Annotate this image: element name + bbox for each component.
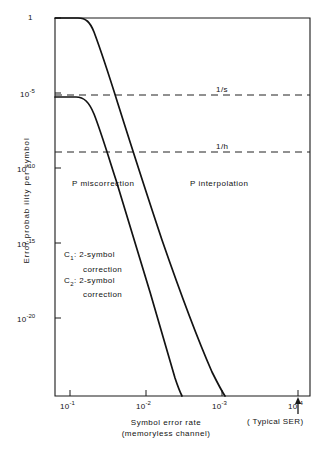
legend-row-c2: C2: 2-symbol (64, 275, 122, 290)
y-tick-label-10e-20: 10-20 (17, 313, 35, 324)
typical-ser-label: ( Typical SER) (247, 417, 304, 426)
y-tick-label-1: 1 (28, 13, 33, 22)
y-axis-ticks (55, 18, 61, 318)
y-tick-label-10e-15: 10-15 (17, 238, 35, 249)
x-axis-title-line1: Symbol error rate (96, 417, 236, 428)
x-axis-title-line2: (memoryless channel) (96, 428, 236, 439)
curve-label-p-miscorrection: P miscorrection (72, 179, 134, 188)
axis-frame (55, 18, 310, 396)
x-tick-label-10e-2: 10-2 (136, 400, 151, 411)
x-tick-label-10e-1: 10-1 (60, 400, 75, 411)
legend-text-c1: 2-symbol (79, 250, 115, 259)
series-p-miscorrection (55, 97, 182, 396)
x-axis-title: Symbol error rate (memoryless channel) (96, 417, 236, 439)
y-tick-label-10e-10: 10-10 (17, 163, 35, 174)
reference-label-1-over-s: 1/s (216, 85, 228, 94)
curve-label-p-interpolation: P interpolation (190, 179, 249, 188)
series-p-interpolation-tail (55, 18, 231, 396)
x-axis-ticks (70, 390, 298, 396)
legend-row-c2-cont: correction (64, 289, 122, 300)
series-p-interpolation (55, 18, 225, 396)
legend-text-c2: 2-symbol (79, 276, 115, 285)
y-tick-label-10e-5: 10-5 (20, 88, 35, 99)
x-tick-label-10e-3: 10-3 (212, 400, 227, 411)
x-tick-label-10e-4: 10-4 (288, 400, 303, 411)
plot-canvas (0, 0, 326, 450)
legend: C1: 2-symbol correction C2: 2-symbol cor… (64, 249, 122, 300)
y-axis-title: Error probab ility per symbol (22, 121, 31, 281)
legend-row-c1-cont: correction (64, 264, 122, 275)
legend-row-c1: C1: 2-symbol (64, 249, 122, 264)
reference-label-1-over-h: 1/h (216, 142, 228, 151)
figure-semilog-error-probability: Error probab ility per symbol 1 10-5 10-… (0, 0, 326, 450)
